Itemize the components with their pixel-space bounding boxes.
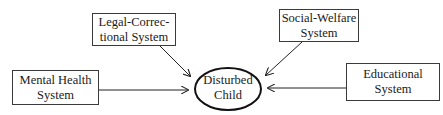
node-label-line1: Social-Welfare	[282, 11, 357, 26]
node-legal-correctional-system: Legal-Correc- tional System	[92, 13, 176, 46]
node-label-line1: Mental Health	[20, 73, 92, 88]
arrow-legal-to-child	[160, 46, 190, 76]
center-node-disturbed-child: Disturbed Child	[194, 73, 262, 103]
center-label-line2: Child	[194, 88, 262, 103]
arrow-social-to-child	[266, 42, 302, 75]
node-label-line2: tional System	[100, 30, 168, 45]
node-educational-system: Educational System	[346, 63, 440, 101]
node-label-line1: Educational	[363, 67, 423, 82]
node-label-line2: System	[301, 26, 338, 41]
node-label-line2: System	[375, 82, 412, 97]
center-label-line1: Disturbed	[194, 73, 262, 88]
node-label-line2: System	[37, 88, 74, 103]
node-social-welfare-system: Social-Welfare System	[279, 9, 359, 42]
node-mental-health-system: Mental Health System	[12, 70, 99, 105]
node-label-line1: Legal-Correc-	[99, 15, 170, 30]
